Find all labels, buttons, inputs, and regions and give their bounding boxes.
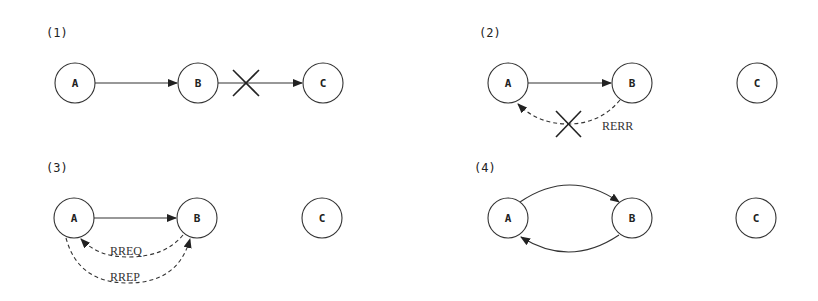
panel-2: (2) RERR A B C [479, 26, 777, 137]
edge-b-to-a-lower [521, 235, 619, 252]
node-c: C [737, 63, 777, 103]
node-label: B [195, 77, 202, 90]
node-b: B [612, 63, 652, 103]
panel-1: (1) A B C [46, 26, 343, 103]
panel-4: (4) A B C [474, 161, 776, 252]
node-b: B [178, 63, 218, 103]
node-label: C [753, 212, 760, 225]
node-label: A [505, 77, 512, 90]
node-label: A [505, 212, 512, 225]
panel-label: (2) [479, 26, 501, 40]
node-a: A [55, 63, 95, 103]
node-label: B [629, 77, 636, 90]
node-label: B [194, 212, 201, 225]
panel-label: (4) [474, 161, 496, 175]
panel-label: (1) [46, 26, 68, 40]
node-a: A [488, 63, 528, 103]
node-c: C [736, 198, 776, 238]
rreq-label: RREQ [110, 244, 142, 258]
rrep-label: RREP [110, 270, 140, 284]
node-label: C [754, 77, 761, 90]
node-label: A [72, 77, 79, 90]
node-a: A [488, 198, 528, 238]
panel-3: (3) RREQ RREP A B C [46, 161, 342, 284]
node-b: B [612, 198, 652, 238]
diagram-canvas: (1) A B C (2) RERR A [0, 0, 818, 301]
panel-label: (3) [46, 161, 68, 175]
node-b: B [177, 198, 217, 238]
node-label: A [71, 212, 78, 225]
rerr-label: RERR [602, 119, 633, 133]
node-label: C [319, 212, 326, 225]
node-c: C [302, 198, 342, 238]
node-label: B [629, 212, 636, 225]
node-a: A [54, 198, 94, 238]
edge-a-to-b-upper [520, 185, 619, 202]
node-c: C [303, 63, 343, 103]
node-label: C [320, 77, 327, 90]
